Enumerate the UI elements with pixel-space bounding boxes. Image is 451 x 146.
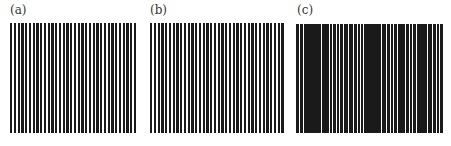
- grating-bar: [248, 23, 250, 133]
- grating-bar: [70, 23, 72, 133]
- grating-bar: [263, 23, 265, 133]
- grating-bar: [33, 23, 35, 133]
- grating-bar: [111, 23, 113, 133]
- grating-bar: [391, 24, 394, 133]
- grating-bar: [96, 23, 98, 133]
- grating-bar: [330, 24, 332, 133]
- grating-bar: [296, 24, 299, 133]
- grating-bar: [169, 23, 171, 133]
- grating-bar: [337, 24, 339, 133]
- grating-bar: [123, 23, 125, 133]
- grating-bar: [115, 23, 117, 133]
- grating-bar: [349, 24, 353, 133]
- grating-bar: [176, 23, 178, 133]
- grating-bar: [364, 24, 366, 133]
- grating-bar: [344, 24, 348, 133]
- panel-c-grating: [296, 24, 443, 133]
- grating-bar: [203, 23, 205, 133]
- grating-bar: [195, 23, 197, 133]
- grating-bar: [36, 23, 38, 133]
- grating-bar: [29, 23, 31, 133]
- grating-bar: [221, 23, 223, 133]
- grating-bar: [304, 24, 307, 133]
- grating-bar: [413, 24, 416, 133]
- grating-bar: [387, 24, 390, 133]
- grating-bar: [134, 23, 136, 133]
- grating-bar: [218, 23, 220, 133]
- grating-bar: [184, 23, 186, 133]
- grating-bar: [74, 23, 76, 133]
- grating-bar: [85, 23, 87, 133]
- grating-bar: [59, 23, 61, 133]
- grating-bar: [40, 23, 42, 133]
- panel-a-grating: [10, 23, 137, 133]
- grating-bar: [312, 24, 316, 133]
- grating-bar: [437, 24, 440, 133]
- grating-bar: [191, 23, 193, 133]
- grating-bar: [93, 23, 95, 133]
- grating-bar: [354, 24, 357, 133]
- grating-bar: [126, 23, 128, 133]
- grating-bar: [165, 23, 167, 133]
- grating-bar: [81, 23, 83, 133]
- grating-bar: [55, 23, 57, 133]
- grating-bar: [225, 23, 227, 133]
- grating-bar: [440, 24, 443, 133]
- grating-bar: [210, 23, 212, 133]
- grating-bar: [18, 23, 20, 133]
- grating-bar: [25, 23, 27, 133]
- grating-bar: [333, 24, 336, 133]
- grating-bar: [322, 24, 325, 133]
- grating-bar: [214, 23, 216, 133]
- grating-bar: [100, 23, 102, 133]
- panel-b-label: (b): [150, 4, 167, 16]
- grating-bar: [361, 24, 364, 133]
- grating-bar: [10, 23, 12, 133]
- grating-bar: [180, 23, 182, 133]
- grating-bar: [51, 23, 53, 133]
- grating-bar: [173, 23, 175, 133]
- panel-a-label: (a): [10, 4, 27, 16]
- grating-bar: [278, 23, 280, 133]
- grating-bar: [406, 24, 409, 133]
- grating-bar: [281, 23, 283, 133]
- grating-bar: [394, 24, 397, 133]
- grating-bar: [340, 24, 343, 133]
- grating-bar: [63, 23, 65, 133]
- grating-bar: [371, 24, 375, 133]
- grating-bar: [21, 23, 23, 133]
- grating-bar: [89, 23, 91, 133]
- grating-bar: [199, 23, 201, 133]
- grating-bar: [78, 23, 80, 133]
- grating-bar: [119, 23, 121, 133]
- grating-bar: [240, 23, 242, 133]
- grating-bar: [14, 23, 16, 133]
- grating-bar: [307, 24, 311, 133]
- grating-bar: [266, 23, 268, 133]
- grating-bar: [233, 23, 235, 133]
- grating-bar: [274, 23, 276, 133]
- grating-bar: [270, 23, 272, 133]
- grating-bar: [316, 24, 321, 133]
- grating-bar: [154, 23, 156, 133]
- grating-bar: [255, 23, 257, 133]
- grating-bar: [66, 23, 68, 133]
- grating-bar: [108, 23, 110, 133]
- grating-bar: [422, 24, 427, 133]
- grating-bar: [158, 23, 160, 133]
- grating-bar: [358, 24, 360, 133]
- grating-bar: [236, 23, 238, 133]
- grating-bar: [229, 23, 231, 133]
- grating-bar: [433, 24, 436, 133]
- grating-bar: [130, 23, 132, 133]
- panel-b-grating: [150, 23, 285, 133]
- grating-bar: [150, 23, 152, 133]
- grating-bar: [244, 23, 246, 133]
- grating-bar: [251, 23, 253, 133]
- grating-bar: [367, 24, 370, 133]
- grating-bar: [417, 24, 422, 133]
- grating-bar: [410, 24, 412, 133]
- grating-bar: [188, 23, 190, 133]
- grating-bar: [376, 24, 381, 133]
- grating-bar: [325, 24, 329, 133]
